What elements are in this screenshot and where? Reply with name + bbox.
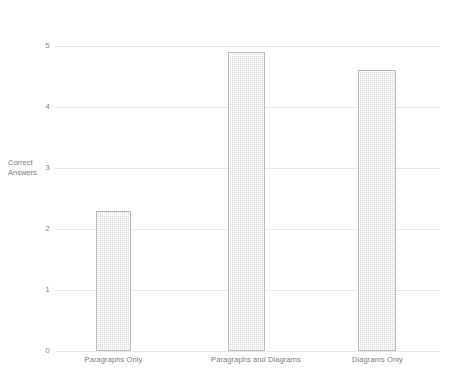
bar-paragraphs-and-diagrams[interactable]	[228, 52, 265, 351]
y-tick-label-0: 0	[24, 347, 50, 355]
bar-paragraphs-only[interactable]	[96, 211, 131, 351]
y-tick-label-5: 5	[24, 42, 50, 50]
x-tick-label-diagrams-only: Diagrams Only	[327, 355, 428, 365]
bar-chart: Correct Answers 5 4 3 2 1 0 Paragraphs O…	[0, 0, 451, 371]
y-tick-label-4: 4	[24, 103, 50, 111]
y-axis-ticks: 5 4 3 2 1 0	[0, 0, 50, 371]
y-tick-label-3: 3	[24, 164, 50, 172]
gridline-5	[55, 46, 440, 47]
x-tick-label-paragraphs-only: Paragraphs Only	[63, 355, 164, 365]
x-tick-label-paragraphs-and-diagrams: Paragraphs and Diagrams	[176, 355, 336, 365]
plot-area	[55, 46, 440, 351]
bar-diagrams-only[interactable]	[358, 70, 396, 351]
gridline-0	[55, 351, 440, 352]
y-tick-label-1: 1	[24, 286, 50, 294]
y-tick-label-2: 2	[24, 225, 50, 233]
